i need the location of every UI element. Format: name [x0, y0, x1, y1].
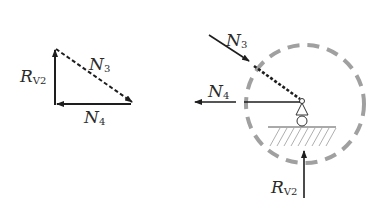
n3-member-dotted — [254, 66, 300, 99]
label-n3-right: N3 — [225, 30, 247, 50]
pin-support-icon — [296, 103, 308, 115]
node-joint — [300, 99, 305, 104]
label-n4-left: N4 — [83, 107, 105, 127]
free-body-diagram: N3 N4 RV2 — [195, 30, 364, 198]
diagram-svg: RV2 N3 N4 N3 N4 — [0, 0, 381, 218]
label-rv2-right: RV2 — [270, 177, 297, 197]
label-rv2-left: RV2 — [19, 66, 46, 86]
ground-hatching — [268, 127, 336, 146]
diagram-canvas: RV2 N3 N4 N3 N4 — [0, 0, 381, 218]
roller-icon — [297, 116, 307, 126]
label-n3-left: N3 — [88, 54, 110, 74]
force-polygon: RV2 N3 N4 — [19, 49, 132, 127]
label-n4-right: N4 — [207, 81, 229, 101]
